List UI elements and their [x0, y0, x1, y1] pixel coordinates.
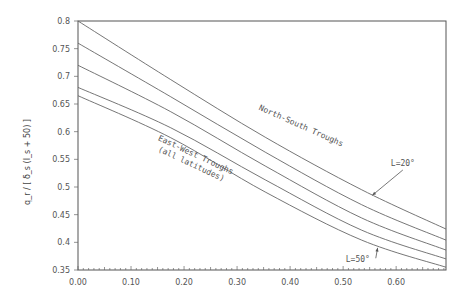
- y-tick-label: 0.5: [57, 183, 70, 192]
- x-tick-label: 0.40: [281, 278, 299, 287]
- x-tick-label: 0.50: [334, 278, 352, 287]
- y-tick-label: 0.35: [52, 266, 70, 275]
- curve-series-1: [78, 43, 446, 240]
- plot-axes: [78, 21, 446, 270]
- y-tick-label: 0.8: [57, 17, 70, 26]
- chart: 0.350.40.450.50.550.60.650.70.750.8 0.00…: [0, 0, 467, 301]
- arrowhead-icon: [375, 248, 378, 252]
- y-tick-label: 0.4: [57, 238, 70, 247]
- y-axis-ticks: 0.350.40.450.50.550.60.650.70.750.8: [52, 17, 78, 275]
- curve-series-2: [78, 65, 446, 250]
- x-tick-label: 0.20: [175, 278, 193, 287]
- y-tick-label: 0.45: [52, 211, 70, 220]
- y-tick-label: 0.65: [52, 100, 70, 109]
- x-tick-label: 0.10: [122, 278, 140, 287]
- annotations: North-South TroughsEast-West Troughs(all…: [157, 103, 415, 264]
- curve-series-0: [78, 21, 446, 229]
- annotation-label: North-South Troughs: [257, 103, 344, 149]
- annotation-label: L=20°: [391, 159, 415, 168]
- y-tick-label: 0.6: [57, 128, 70, 137]
- y-tick-label: 0.75: [52, 45, 70, 54]
- plot-frame: [78, 21, 446, 270]
- data-curves: [78, 21, 446, 267]
- x-tick-label: 0.30: [228, 278, 246, 287]
- x-tick-label: 0.00: [69, 278, 87, 287]
- y-tick-label: 0.7: [57, 72, 70, 81]
- y-tick-label: 0.55: [52, 155, 70, 164]
- annotation-label: L=50°: [346, 255, 370, 264]
- y-axis-label: q_r / [ δ_s (I_s + 50) ]: [23, 119, 32, 205]
- arrow-icon: [372, 170, 403, 195]
- x-axis-ticks: 0.000.100.200.300.400.500.60: [69, 266, 444, 287]
- x-tick-label: 0.60: [387, 278, 405, 287]
